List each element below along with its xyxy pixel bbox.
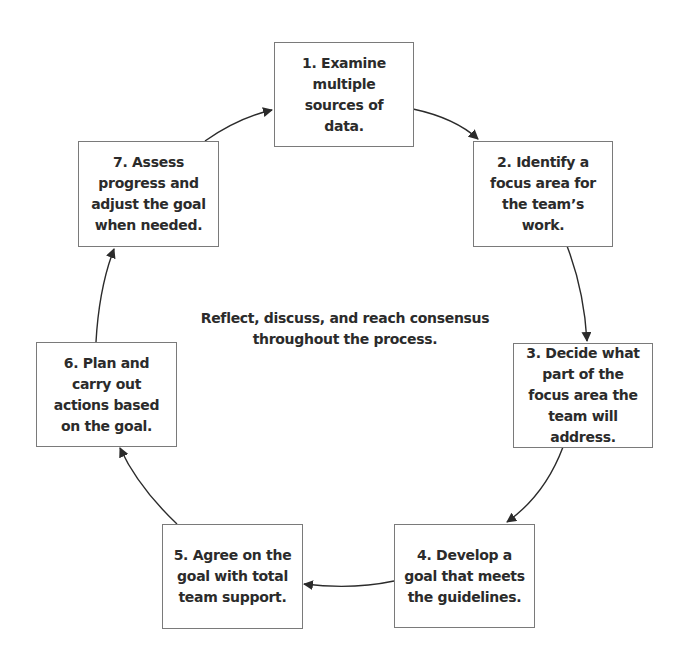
arrow-6-to-7 xyxy=(96,249,114,342)
step-1-label: 1. Examine multiple sources of data. xyxy=(285,53,403,137)
step-5-label: 5. Agree on the goal with total team sup… xyxy=(171,545,295,608)
step-3-box: 3. Decide what part of the focus area th… xyxy=(513,343,653,448)
center-note: Reflect, discuss, and reach consensus th… xyxy=(200,308,490,350)
step-6-label: 6. Plan and carry out actions based on t… xyxy=(44,353,170,437)
step-2-label: 2. Identify a focus area for the team’s … xyxy=(482,152,604,236)
arrow-4-to-5 xyxy=(304,581,394,586)
arrow-3-to-4 xyxy=(507,447,563,522)
step-5-box: 5. Agree on the goal with total team sup… xyxy=(162,524,303,629)
step-7-label: 7. Assess progress and adjust the goal w… xyxy=(87,152,211,236)
step-4-label: 4. Develop a goal that meets the guideli… xyxy=(401,545,528,608)
step-3-label: 3. Decide what part of the focus area th… xyxy=(521,343,645,448)
arrow-1-to-2 xyxy=(413,109,478,139)
step-1-box: 1. Examine multiple sources of data. xyxy=(274,42,414,147)
step-4-box: 4. Develop a goal that meets the guideli… xyxy=(394,524,535,628)
step-6-box: 6. Plan and carry out actions based on t… xyxy=(36,342,177,447)
arrow-7-to-1 xyxy=(205,110,272,141)
arrow-2-to-3 xyxy=(567,246,587,341)
step-7-box: 7. Assess progress and adjust the goal w… xyxy=(78,141,219,247)
arrow-5-to-6 xyxy=(120,448,177,524)
step-2-box: 2. Identify a focus area for the team’s … xyxy=(473,141,613,247)
